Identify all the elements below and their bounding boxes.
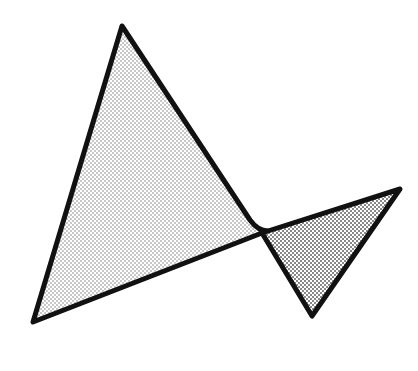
small-triangle — [262, 189, 400, 316]
large-triangle — [33, 26, 268, 322]
two-triangles-diagram — [0, 0, 418, 371]
